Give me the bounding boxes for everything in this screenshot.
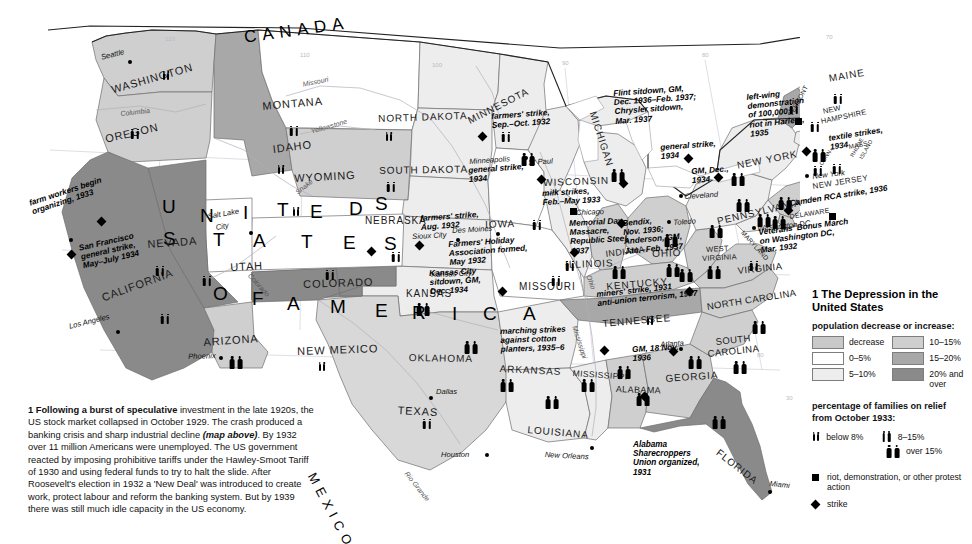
city-label-dallas: Dallas [436,387,457,396]
caption-body-2: . By 1932 over 11 million Americans were… [28,430,309,514]
relief-marker [752,320,766,338]
relief-marker [416,302,430,320]
us-display-letter: S [375,193,388,215]
relief-marker [810,118,820,136]
relief-marker [617,365,631,383]
graticule-label: 70 [826,34,833,40]
strike-diamond [802,147,812,157]
relief-marker [636,392,650,410]
legend-number: 1 [812,288,818,300]
city-dot-houston [485,453,489,457]
city-dot-los-angeles [116,330,120,334]
city-dot-atlanta [679,347,683,351]
legend-swatch-label: 15–20% [929,352,961,363]
relief-marker [565,257,575,275]
city-dot-washington-dc [752,226,756,230]
us-display-letter: M [330,296,346,318]
graticule-label: 80 [702,52,709,58]
city-dot-seattle [128,60,132,64]
us-display-letter: E [310,201,323,223]
city-dot-miami [768,490,772,494]
state-label-maine: MAINE [828,67,866,84]
relief-marker [646,311,654,329]
graticule-label: 120 [165,36,175,42]
legend-relief-heading: percentage of families on relief from Oc… [812,401,968,424]
us-display-letter: T [301,231,313,253]
legend-swatch-20-and-over [892,368,924,381]
relief-marker [277,160,285,178]
graticule-label: 110 [300,52,310,58]
legend-symbol-rows: riot, demonstration, or other protest ac… [812,472,968,509]
annotation-flint-sitdown: Flint sitdown, GM,Dec. 1936–Feb. 1937;Ch… [613,83,698,125]
caption-block: 1 Following a burst of speculative inves… [28,404,314,516]
state-label-utah: UTAH [230,259,263,273]
relief-marker [229,355,243,373]
legend-symbol-row: strike [812,499,968,509]
graticule-label: 80 [757,352,764,358]
relief-marker [551,272,561,290]
city-dot-san-francisco [69,238,73,242]
relief-marker [712,415,726,433]
us-display-letter: I [243,202,248,224]
legend-relief-label: over 15% [906,446,942,456]
relief-marker [292,202,300,220]
annotation-line: Alabama [633,440,699,449]
city-label-sioux-city: Sioux City [412,230,447,241]
legend-swatch-row: 10–15% [892,336,968,349]
annotation-camden-rca-strike: Camden RCA strike, 1936 [789,184,888,209]
relief-marker [545,395,559,413]
relief-marker [778,196,792,214]
diamond-symbol-icon [811,499,821,509]
us-display-letter: U [162,196,176,218]
legend-population-heading: population decrease or increase: [812,321,968,333]
city-label-chicago: Chicago [576,207,604,217]
legend-relief-label: below 8% [826,432,863,442]
us-display-letter: T [277,199,289,221]
relief-marker [422,415,432,433]
relief-marker [160,310,170,328]
relief-marker [833,90,843,108]
relief-marker [289,122,299,140]
relief-marker [325,266,335,284]
us-display-letter: A [287,293,300,315]
legend-symbol-label: strike [827,499,848,509]
legend-population-swatches: decrease10–15%0–5%15–20%5–10%20% and ove… [812,336,968,389]
legend-swatch-label: 20% and over [929,368,968,389]
legend-swatch-row: 5–10% [812,368,884,389]
relief-marker [789,100,799,118]
legend-relief-item: 8–15% [881,431,924,442]
relief-marker [612,265,626,283]
us-display-letter: T [213,229,225,251]
relief-marker [464,340,478,358]
city-dot-dallas [429,396,433,400]
relief-marker [391,248,401,266]
relief-marker [202,272,212,290]
relief-marker [581,378,595,396]
relief-marker [688,355,702,373]
legend-symbol-label: riot, demonstration, or other protest ac… [827,472,968,492]
relief-marker [733,360,747,378]
us-display-letter: C [483,303,497,325]
us-display-letter: E [343,232,356,254]
riot-square [795,118,802,125]
legend-relief-label: 8–15% [898,432,925,442]
legend-relief-item: over 15% [886,445,968,458]
relief-marker [832,160,842,178]
caption-number: 1 [28,405,33,415]
legend-swatch-label: 0–5% [849,352,871,363]
city-dot-new-york-city [805,174,809,178]
graticule-label: 90 [562,60,569,66]
us-display-letter: D [349,198,363,220]
legend-swatch-label: decrease [849,336,884,347]
state-label-missouri: MISSOURI [519,281,576,292]
annotation-line: Union organized, [633,458,699,467]
us-display-letter: A [253,230,266,252]
relief-marker [666,263,680,281]
relief-marker [532,216,542,234]
caption-emphasis: (map above) [203,430,258,440]
legend-swatch-row: 0–5% [812,352,884,365]
city-dot-phoenix [219,356,223,360]
city-dot-salt-lake-city [249,231,253,235]
relief-marker [772,215,786,233]
city-dot-new-orleans [590,446,594,450]
